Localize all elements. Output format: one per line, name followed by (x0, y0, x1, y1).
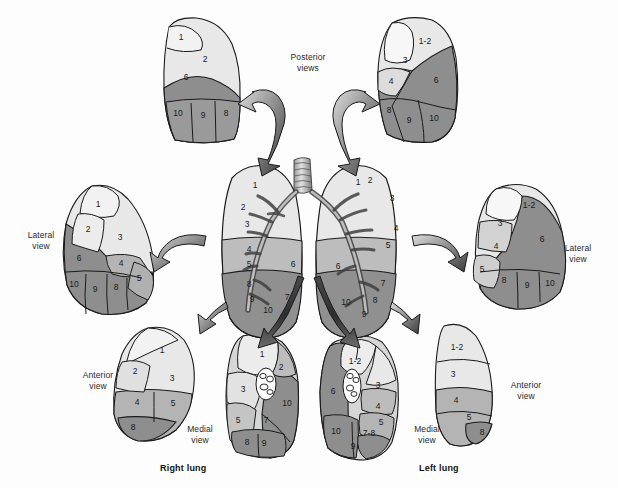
label-medial-view-right: Medial view (176, 424, 224, 445)
label-lateral-view-left: Lateral view (551, 243, 605, 264)
label-medial-view-left: Medial view (403, 424, 451, 445)
title-left-lung: Left lung (419, 463, 459, 473)
label-lateral-view-right: Lateral view (14, 230, 68, 251)
title-right-lung: Right lung (160, 463, 207, 473)
view-medial-right (226, 334, 299, 458)
label-anterior-view-right: Anterior view (70, 370, 126, 391)
trachea (294, 158, 312, 194)
view-posterior-right (164, 18, 240, 143)
central-lungs (222, 158, 396, 338)
arrow-anterior-left (390, 302, 420, 334)
lung-segments-figure: 12610981-2346891012364510981-23465891012… (0, 0, 618, 488)
arrow-posterior-left (333, 90, 380, 176)
label-posterior-views: Posterior views (268, 52, 348, 73)
view-medial-left (320, 335, 398, 460)
arrow-lateral-left (412, 235, 468, 272)
arrow-lateral-right (150, 235, 206, 272)
arrow-anterior-right (198, 302, 228, 334)
label-anterior-view-left: Anterior view (498, 380, 554, 401)
view-posterior-left (378, 18, 458, 143)
view-lateral-right (63, 185, 153, 314)
arrow-posterior-right (238, 90, 285, 176)
